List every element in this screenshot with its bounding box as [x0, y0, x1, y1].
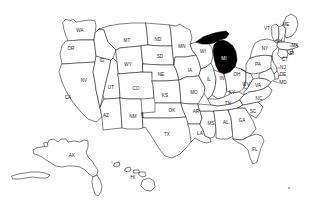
state-label-MD: MD	[279, 80, 287, 85]
state-label-IL: IL	[207, 77, 211, 82]
state-label-NM: NM	[129, 114, 136, 119]
state-label-MA: MA	[291, 43, 299, 48]
state-shape-OK[interactable]	[142, 103, 186, 118]
state-label-CA: CA	[65, 95, 72, 100]
state-label-MN: MN	[178, 44, 185, 49]
state-label-VT: VT	[264, 26, 270, 31]
state-shape-HI-molokai[interactable]	[134, 170, 139, 173]
state-label-NC: NC	[256, 96, 263, 101]
state-shape-HI-kauai[interactable]	[114, 162, 120, 167]
state-shape-ND[interactable]	[146, 23, 172, 46]
state-label-OR: OR	[67, 46, 75, 51]
state-label-AK: AK	[69, 153, 76, 158]
state-label-NJ: NJ	[280, 65, 286, 70]
state-label-FL: FL	[252, 147, 258, 152]
state-label-PA: PA	[255, 62, 262, 67]
state-shape-HI-bigisland[interactable]	[141, 178, 155, 191]
state-label-IA: IA	[188, 68, 193, 73]
state-shape-AK[interactable]	[33, 139, 98, 177]
state-label-HI: HI	[131, 175, 136, 180]
state-label-CO: CO	[132, 86, 139, 91]
state-label-ME: ME	[282, 22, 289, 27]
state-label-VA: VA	[255, 83, 262, 88]
state-label-KS: KS	[162, 93, 168, 98]
state-shape-KS[interactable]	[152, 80, 181, 103]
state-label-UT: UT	[108, 85, 114, 90]
state-label-WA: WA	[76, 28, 84, 33]
state-label-AR: AR	[193, 109, 200, 114]
speck-mark	[288, 187, 289, 188]
state-shape-HI-oahu[interactable]	[125, 167, 131, 172]
state-label-WY: WY	[124, 62, 132, 67]
state-label-AZ: AZ	[103, 113, 109, 118]
state-label-NY: NY	[262, 46, 269, 51]
state-shape-AK-islet-west[interactable]	[44, 142, 48, 147]
state-shape-AK-aleutians[interactable]	[12, 172, 50, 179]
state-label-NE: NE	[158, 72, 165, 77]
state-label-ID: ID	[100, 58, 105, 63]
speck-mark	[111, 161, 112, 162]
state-shape-AK-panhandle[interactable]	[92, 175, 102, 196]
state-label-MT: MT	[124, 38, 131, 43]
leader-line-md	[273, 81, 279, 83]
usa-map-svg: WAORCANVIDMTWYUTAZCONMNDSDNEKSOKTXMNIAMO…	[0, 0, 319, 218]
state-label-RI: RI	[290, 51, 295, 56]
state-label-AL: AL	[223, 120, 229, 125]
state-label-CT: CT	[282, 57, 288, 62]
state-label-NH: NH	[276, 39, 283, 44]
state-label-MI: MI	[221, 56, 226, 61]
state-label-SD: SD	[157, 54, 164, 59]
state-label-WI: WI	[200, 49, 206, 54]
state-label-IN: IN	[220, 76, 225, 81]
state-label-TX: TX	[164, 132, 170, 137]
state-label-TN: TN	[225, 101, 231, 106]
state-label-WV: WV	[242, 82, 250, 87]
state-label-MO: MO	[190, 90, 198, 95]
state-shape-OR[interactable]	[60, 40, 96, 64]
state-shape-WY[interactable]	[116, 46, 143, 74]
state-label-OH: OH	[233, 72, 240, 77]
state-shape-HI-maui[interactable]	[139, 172, 146, 177]
us-state-locator-map: WAORCANVIDMTWYUTAZCONMNDSDNEKSOKTXMNIAMO…	[0, 0, 319, 218]
state-label-DE: DE	[280, 72, 287, 77]
state-label-SC: SC	[250, 109, 257, 114]
state-label-KY: KY	[229, 90, 235, 95]
state-label-OK: OK	[169, 108, 177, 113]
state-label-GA: GA	[239, 118, 247, 123]
state-label-ND: ND	[155, 37, 162, 42]
state-label-MS: MS	[207, 121, 214, 126]
state-label-NV: NV	[81, 78, 88, 83]
map-speck-layer	[111, 161, 289, 188]
state-label-LA: LA	[197, 131, 204, 136]
